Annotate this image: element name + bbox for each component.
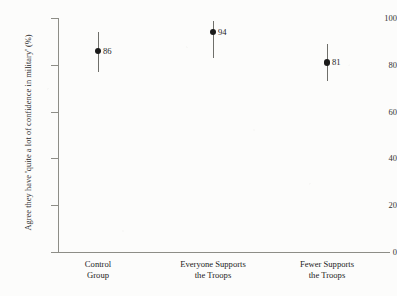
x-category-label-fewer-supports-line1: Fewer Supports <box>267 259 387 270</box>
x-category-label-everyone-supports-line2: the Troops <box>153 270 273 281</box>
x-category-label-everyone-supports: Everyone Supports the Troops <box>153 259 273 281</box>
x-category-label-everyone-supports-line1: Everyone Supports <box>153 259 273 270</box>
x-category-label-fewer-supports-line2: the Troops <box>267 270 387 281</box>
data-marker-control-group <box>95 48 101 54</box>
data-marker-fewer-supports <box>324 59 330 65</box>
y-tick-100-mark <box>51 18 58 19</box>
data-value-label-control-group: 86 <box>103 47 112 56</box>
x-category-label-fewer-supports: Fewer Supports the Troops <box>267 259 387 281</box>
y-tick-40-mark <box>51 158 58 159</box>
data-value-label-fewer-supports: 81 <box>332 58 341 67</box>
data-marker-everyone-supports <box>210 29 216 35</box>
y-tick-20-mark <box>51 205 58 206</box>
y-tick-0-mark <box>51 252 58 253</box>
x-category-label-control-group-line1: Control <box>38 259 158 270</box>
data-value-label-everyone-supports: 94 <box>218 28 227 37</box>
y-axis-title: Agree they have 'quite a lot of confiden… <box>24 8 33 258</box>
x-category-label-control-group: Control Group <box>38 259 158 281</box>
y-tick-80-mark <box>51 65 58 66</box>
x-category-label-control-group-line2: Group <box>38 270 158 281</box>
error-bar-everyone-supports <box>213 21 214 59</box>
plot-area: 86 94 81 <box>58 18 390 252</box>
y-tick-60-mark <box>51 112 58 113</box>
chart-figure: 100 80 60 40 20 0 Agree they have 'quite… <box>0 0 397 296</box>
